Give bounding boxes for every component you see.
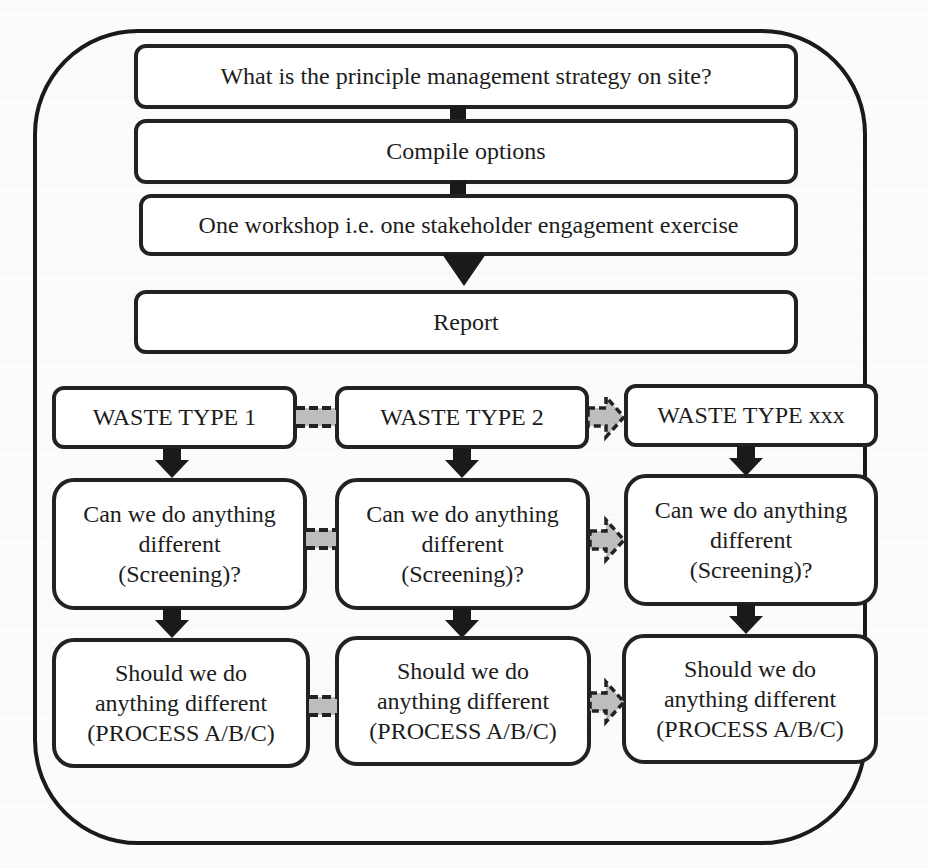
step-report-label: Report [433, 308, 498, 337]
arrow-down-icon [155, 460, 189, 478]
process-box-xxx: Should we do anything different (PROCESS… [622, 634, 878, 764]
process-box-2: Should we do anything different (PROCESS… [335, 636, 591, 766]
process-1-line-1: Should we do [87, 658, 274, 688]
process-2-line-3: (PROCESS A/B/C) [369, 716, 556, 746]
process-xxx-line-3: (PROCESS A/B/C) [656, 714, 843, 744]
process-xxx-line-1: Should we do [656, 654, 843, 684]
connector-process-1-2 [309, 694, 337, 718]
process-xxx-line-2: anything different [656, 684, 843, 714]
connector-screening-1-2 [306, 527, 336, 551]
waste-type-1-label: WASTE TYPE 1 [93, 403, 257, 432]
connector-arrow-screening-2-xxx [590, 520, 626, 560]
screening-box-2: Can we do anything different (Screening)… [335, 478, 590, 610]
arrow-down-icon [729, 616, 763, 634]
screening-box-xxx: Can we do anything different (Screening)… [624, 474, 878, 606]
screening-2-line-2: different [366, 529, 559, 559]
arrow-down-icon [155, 620, 189, 638]
screening-xxx-line-1: Can we do anything [655, 495, 848, 525]
process-2-line-2: anything different [369, 686, 556, 716]
process-1-line-3: (PROCESS A/B/C) [87, 718, 274, 748]
process-2-line-1: Should we do [369, 656, 556, 686]
arrow-down-icon [445, 460, 479, 478]
waste-type-xxx-label: WASTE TYPE xxx [657, 401, 845, 430]
process-box-1: Should we do anything different (PROCESS… [52, 638, 310, 768]
screening-1-line-2: different [83, 529, 276, 559]
waste-type-2-label: WASTE TYPE 2 [380, 403, 544, 432]
process-1-line-2: anything different [87, 688, 274, 718]
step-compile: Compile options [134, 119, 798, 184]
connector-arrow-process-2-xxx [590, 682, 626, 722]
step-strategy: What is the principle management strateg… [134, 44, 798, 109]
step-report: Report [134, 290, 798, 354]
step-workshop-label: One workshop i.e. one stakeholder engage… [199, 211, 739, 240]
screening-2-line-1: Can we do anything [366, 499, 559, 529]
screening-1-line-1: Can we do anything [83, 499, 276, 529]
connector-type1-type2 [296, 405, 336, 427]
step-compile-label: Compile options [386, 137, 545, 166]
step-strategy-label: What is the principle management strateg… [220, 62, 711, 91]
waste-type-xxx-box: WASTE TYPE xxx [624, 384, 878, 447]
screening-xxx-line-3: (Screening)? [655, 555, 848, 585]
screening-xxx-line-2: different [655, 525, 848, 555]
waste-type-2-box: WASTE TYPE 2 [335, 386, 589, 449]
screening-box-1: Can we do anything different (Screening)… [52, 478, 307, 610]
screening-2-line-3: (Screening)? [366, 559, 559, 589]
connector-arrow-type2-typexxx [588, 397, 628, 437]
step-workshop: One workshop i.e. one stakeholder engage… [139, 194, 798, 256]
arrow-down-icon [442, 254, 486, 286]
screening-1-line-3: (Screening)? [83, 559, 276, 589]
waste-type-1-box: WASTE TYPE 1 [52, 386, 297, 449]
